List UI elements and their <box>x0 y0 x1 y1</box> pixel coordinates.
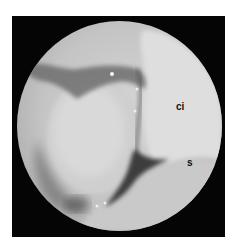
label-ci: ci <box>176 102 184 112</box>
endoscopic-field-of-view <box>17 21 222 231</box>
tissue-illustration <box>17 21 222 231</box>
label-s: s <box>187 158 193 168</box>
